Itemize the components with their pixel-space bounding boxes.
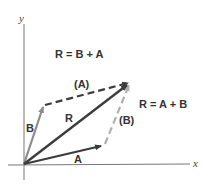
label-r: R (65, 112, 73, 124)
equation-top: R = B + A (55, 48, 104, 60)
vector-addition-diagram: y x R = B + A R = A + B (A) (B) B R A (0, 0, 203, 187)
label-b: B (26, 122, 34, 134)
label-a: A (74, 153, 82, 165)
equation-right: R = A + B (139, 98, 187, 110)
label-a-shifted: (A) (74, 78, 90, 90)
x-axis-label: x (192, 157, 198, 169)
label-b-shifted: (B) (119, 114, 135, 126)
y-axis-label: y (18, 12, 24, 24)
diagram-canvas: y x R = B + A R = A + B (A) (B) B R A (0, 0, 203, 187)
x-axis (8, 164, 190, 165)
